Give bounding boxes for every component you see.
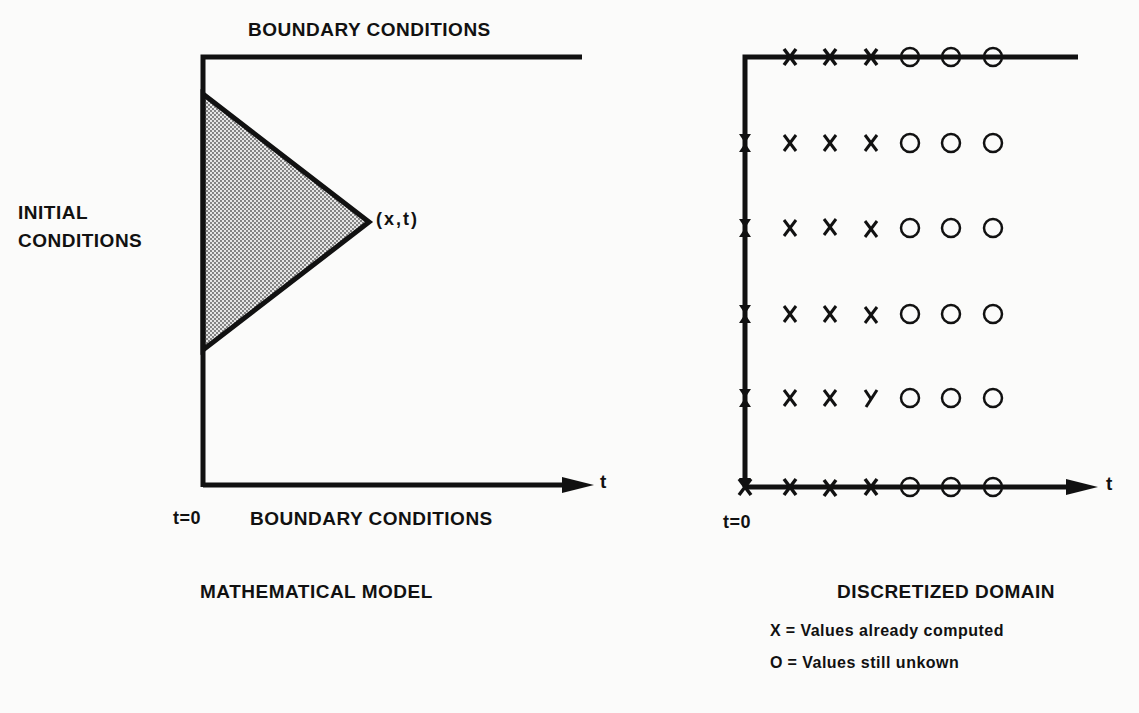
legend-text-unknown: = Values still unkown [787,654,959,671]
initial-conditions-label-line2: CONDITIONS [18,230,142,252]
mathematical-model-diagram [203,57,594,493]
discretized-domain-caption: DISCRETIZED DOMAIN [837,581,1055,603]
legend-symbol-x: X [770,622,781,639]
legend-text-computed: = Values already computed [786,622,1004,639]
legend-item-computed: X = Values already computed [770,622,1004,640]
discretized-domain-diagram [739,48,1098,496]
right-t-axis-label: t [1106,473,1113,495]
right-origin-label: t=0 [723,512,751,533]
legend-symbol-o: O [770,654,783,671]
legend-item-unknown: O = Values still unkown [770,654,959,672]
interior-o-markers [901,134,1002,407]
bottom-boundary-conditions-label: BOUNDARY CONDITIONS [250,508,493,530]
left-t-axis-arrowhead [562,477,594,493]
top-boundary-conditions-label: BOUNDARY CONDITIONS [248,19,491,41]
mathematical-model-caption: MATHEMATICAL MODEL [200,581,433,603]
right-t-axis-arrowhead [1066,479,1098,495]
interior-x-markers [784,135,877,407]
diagram-canvas [0,0,1139,713]
point-xt-label: (x,t) [376,209,419,230]
right-top-boundary-line [745,57,1078,487]
initial-conditions-label-line1: INITIAL [18,202,88,224]
left-t-axis-label: t [600,471,607,493]
left-origin-label: t=0 [173,508,201,529]
domain-of-dependence-triangle [203,94,369,350]
